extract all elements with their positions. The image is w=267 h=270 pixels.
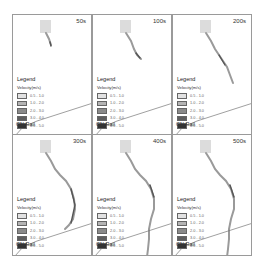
legend-row: 0.5 - 1.0 — [97, 92, 124, 100]
time-label: 100s — [153, 18, 166, 24]
legend-subtitle: Velocity(m/s) — [177, 85, 204, 90]
legend-label: 1.0 - 2.0 — [110, 101, 124, 105]
time-label: 50s — [76, 18, 86, 24]
legend-label: 3.0 - 4.0 — [190, 116, 204, 120]
legend-label: 0.5 - 1.0 — [110, 214, 124, 218]
legend-label: 2.0 - 3.0 — [30, 229, 44, 233]
rail-label: CN Rail — [176, 121, 195, 127]
legend-swatch — [17, 101, 27, 107]
legend-swatch — [97, 101, 107, 107]
legend-row: 0.5 - 1.0 — [177, 92, 204, 100]
legend-title: Legend — [177, 76, 204, 82]
legend-swatch — [177, 108, 187, 114]
time-label: 200s — [233, 18, 246, 24]
legend-row: 1.0 - 2.0 — [17, 220, 44, 228]
legend-row: 0.5 - 1.0 — [17, 92, 44, 100]
flood-flow-path — [206, 33, 233, 83]
legend-swatch — [97, 93, 107, 99]
legend-row: 2.0 - 3.0 — [177, 227, 204, 235]
legend-label: 0.5 - 1.0 — [30, 214, 44, 218]
legend-swatch — [177, 228, 187, 234]
reservoir-area — [120, 140, 131, 153]
legend-title: Legend — [97, 196, 124, 202]
legend-swatch — [17, 228, 27, 234]
legend-swatch — [177, 93, 187, 99]
reservoir-area — [40, 20, 51, 33]
legend-swatch — [17, 213, 27, 219]
legend-row: 2.0 - 3.0 — [97, 227, 124, 235]
legend-title: Legend — [17, 76, 44, 82]
legend-label: 0.5 - 1.0 — [30, 94, 44, 98]
rail-label: CN Rail — [176, 241, 195, 247]
reservoir-area — [200, 20, 211, 33]
legend-row: 2.0 - 3.0 — [17, 227, 44, 235]
legend-row: 0.5 - 1.0 — [17, 212, 44, 220]
legend-label: 3.0 - 4.0 — [30, 116, 44, 120]
legend-swatch — [177, 221, 187, 227]
legend-label: 2.0 - 3.0 — [110, 109, 124, 113]
rail-label: CN Rail — [16, 241, 35, 247]
legend-subtitle: Velocity(m/s) — [97, 85, 124, 90]
reservoir-area — [120, 20, 131, 33]
legend-swatch — [177, 213, 187, 219]
flood-flow-path — [126, 153, 154, 256]
map-panel-200s: 200s Legend Velocity(m/s) 0.5 - 1.01.0 -… — [172, 14, 252, 136]
legend-swatch — [17, 221, 27, 227]
map-panel-400s: 400s Legend Velocity(m/s) 0.5 - 1.01.0 -… — [92, 134, 172, 256]
time-label: 400s — [153, 138, 166, 144]
reservoir-area — [200, 140, 211, 153]
legend-label: 1.0 - 2.0 — [30, 101, 44, 105]
time-label: 300s — [73, 138, 86, 144]
legend-label: 0.5 - 1.0 — [190, 94, 204, 98]
legend-subtitle: Velocity(m/s) — [97, 205, 124, 210]
legend-label: 3.0 - 4.0 — [110, 116, 124, 120]
legend-swatch — [17, 108, 27, 114]
legend-label: 1.0 - 2.0 — [190, 221, 204, 225]
legend-label: 2.0 - 3.0 — [190, 109, 204, 113]
map-panel-100s: 100s Legend Velocity(m/s) 0.5 - 1.01.0 -… — [92, 14, 172, 136]
legend-row: 1.0 - 2.0 — [97, 220, 124, 228]
legend-label: 2.0 - 3.0 — [110, 229, 124, 233]
legend-label: 2.0 - 3.0 — [190, 229, 204, 233]
legend-label: 3.0 - 4.0 — [110, 236, 124, 240]
legend-swatch — [97, 213, 107, 219]
legend-row: 0.5 - 1.0 — [177, 212, 204, 220]
map-panel-50s: 50s Legend Velocity(m/s) 0.5 - 1.01.0 - … — [12, 14, 92, 136]
map-panel-500s: 500s Legend Velocity(m/s) 0.5 - 1.01.0 -… — [172, 134, 252, 256]
legend-row: 1.0 - 2.0 — [97, 100, 124, 108]
flood-flow-path — [126, 33, 141, 59]
legend-row: 2.0 - 3.0 — [17, 107, 44, 115]
legend-row: 1.0 - 2.0 — [177, 220, 204, 228]
time-label: 500s — [233, 138, 246, 144]
legend-row: 0.5 - 1.0 — [97, 212, 124, 220]
legend-label: 3.0 - 4.0 — [190, 236, 204, 240]
legend-label: 0.5 - 1.0 — [190, 214, 204, 218]
flood-flow-path — [206, 153, 234, 256]
legend-label: 1.0 - 2.0 — [110, 221, 124, 225]
legend-swatch — [97, 221, 107, 227]
legend-swatch — [17, 93, 27, 99]
high-velocity-segment — [219, 55, 225, 65]
legend-row: 1.0 - 2.0 — [177, 100, 204, 108]
map-panel-300s: 300s Legend Velocity(m/s) 0.5 - 1.01.0 -… — [12, 134, 92, 256]
legend-swatch — [97, 228, 107, 234]
legend-title: Legend — [17, 196, 44, 202]
legend-row: 2.0 - 3.0 — [97, 107, 124, 115]
rail-label: CN Rail — [96, 241, 115, 247]
legend-swatch — [97, 108, 107, 114]
legend-label: 1.0 - 2.0 — [30, 221, 44, 225]
legend-row: 2.0 - 3.0 — [177, 107, 204, 115]
legend-row: 1.0 - 2.0 — [17, 100, 44, 108]
legend-subtitle: Velocity(m/s) — [17, 205, 44, 210]
legend-title: Legend — [177, 196, 204, 202]
rail-label: CN Rail — [16, 121, 35, 127]
legend-label: 0.5 - 1.0 — [110, 94, 124, 98]
flood-flow-path — [46, 153, 75, 229]
legend-title: Legend — [97, 76, 124, 82]
legend-swatch — [177, 101, 187, 107]
rail-label: CN Rail — [96, 121, 115, 127]
legend-label: 1.0 - 2.0 — [190, 101, 204, 105]
legend-label: 3.0 - 4.0 — [30, 236, 44, 240]
high-velocity-segment — [50, 42, 51, 46]
legend-label: 2.0 - 3.0 — [30, 109, 44, 113]
